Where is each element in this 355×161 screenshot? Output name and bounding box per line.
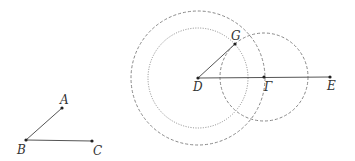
label-A: A xyxy=(59,93,69,107)
segment-BA xyxy=(26,108,62,140)
point-Gamma xyxy=(262,75,265,78)
segment-BC xyxy=(26,140,92,141)
label-G: G xyxy=(231,29,241,43)
label-E: E xyxy=(326,79,336,93)
label-B: B xyxy=(16,143,26,157)
segment-DG xyxy=(198,44,235,78)
point-C xyxy=(90,139,93,142)
diagram-canvas: ABCDGΓE xyxy=(0,0,355,161)
point-B xyxy=(24,138,27,141)
label-C: C xyxy=(93,144,102,158)
label-Gamma: Γ xyxy=(263,80,273,94)
label-D: D xyxy=(192,80,203,94)
